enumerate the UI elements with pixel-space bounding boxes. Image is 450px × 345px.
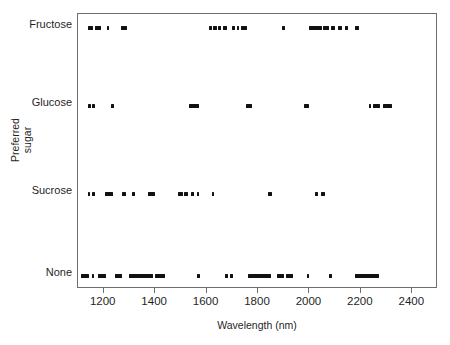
chart-figure: Preferred sugar Fructose Glucose Sucrose… <box>0 0 450 345</box>
x-tick-mark <box>154 288 155 293</box>
x-tick-mark <box>103 288 104 293</box>
x-tick-label: 1800 <box>235 295 279 308</box>
x-tick-label: 2400 <box>389 295 433 308</box>
x-tick-mark <box>360 288 361 293</box>
x-tick-label: 1400 <box>132 295 176 308</box>
x-tick-label: 1200 <box>81 295 125 308</box>
x-axis-title: Wavelength (nm) <box>77 319 437 331</box>
x-tick-mark <box>257 288 258 293</box>
x-tick-label: 2000 <box>286 295 330 308</box>
x-tick-label: 1600 <box>184 295 228 308</box>
x-tick-mark <box>206 288 207 293</box>
x-axis: 1200140016001800200022002400 <box>0 0 450 345</box>
x-tick-mark <box>308 288 309 293</box>
x-tick-mark <box>411 288 412 293</box>
x-tick-label: 2200 <box>338 295 382 308</box>
